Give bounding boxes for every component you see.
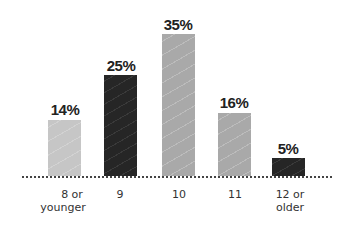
value-label-11: 16% <box>204 94 264 111</box>
bar-10 <box>162 34 195 176</box>
bar-11 <box>218 113 251 176</box>
bar-chart: 14% 25% 35% 16% 5% 8 or younger 9 10 11 … <box>0 0 347 232</box>
value-label-12-or-older: 5% <box>258 140 318 157</box>
bar-9 <box>104 75 137 176</box>
bar-8-or-younger <box>48 120 81 176</box>
value-label-9: 25% <box>91 57 151 74</box>
category-label-12-or-older: 12 or older <box>255 188 325 214</box>
x-axis-baseline <box>22 176 332 178</box>
bar-12-or-older <box>272 158 305 176</box>
value-label-10: 35% <box>148 16 208 33</box>
value-label-8-or-younger: 14% <box>35 101 95 118</box>
